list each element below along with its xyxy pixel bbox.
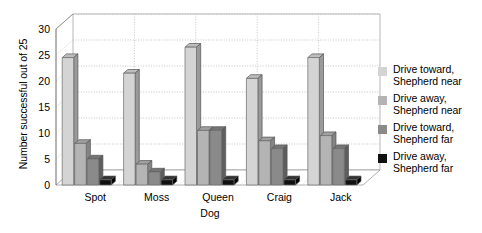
bar-front-face bbox=[320, 136, 332, 185]
legend-swatch-icon bbox=[378, 67, 387, 76]
bar-queen-series-4 bbox=[223, 176, 239, 185]
bar-chart: Number successful out of 25 051015202530… bbox=[0, 0, 482, 233]
bar-front-face bbox=[185, 47, 197, 185]
bar-front-face bbox=[284, 180, 296, 185]
x-category-label-spot: Spot bbox=[84, 191, 106, 203]
legend-swatch-icon bbox=[378, 96, 387, 105]
x-category-label-queen: Queen bbox=[202, 191, 234, 203]
y-axis-top-depth-line bbox=[56, 14, 73, 29]
bar-front-face bbox=[198, 130, 210, 185]
bar-front-face bbox=[149, 172, 161, 185]
bar-front-face bbox=[259, 141, 271, 185]
chart-legend: Drive toward, Shepherd nearDrive away, S… bbox=[378, 64, 482, 180]
x-category-label-craig: Craig bbox=[267, 191, 292, 203]
legend-item[interactable]: Drive toward, Shepherd far bbox=[378, 122, 482, 145]
x-category-label-jack: Jack bbox=[330, 191, 352, 203]
bar-front-face bbox=[62, 58, 73, 185]
bar-front-face bbox=[246, 78, 258, 185]
bar-craig-series-4 bbox=[284, 176, 300, 185]
bar-front-face bbox=[223, 180, 235, 185]
bar-front-face bbox=[87, 159, 99, 185]
bar-front-face bbox=[271, 149, 283, 185]
x-axis-title: Dog bbox=[55, 207, 365, 219]
legend-item[interactable]: Drive away, Shepherd far bbox=[378, 151, 482, 174]
bar-front-face bbox=[75, 143, 87, 185]
bar-front-face bbox=[210, 130, 222, 185]
bar-front-face bbox=[136, 164, 148, 185]
bar-spot-series-4 bbox=[100, 176, 116, 185]
legend-swatch-icon bbox=[378, 125, 387, 134]
bar-moss-series-4 bbox=[161, 176, 177, 185]
x-category-label-moss: Moss bbox=[144, 191, 169, 203]
legend-item[interactable]: Drive toward, Shepherd near bbox=[378, 64, 482, 87]
legend-item-label: Drive toward, Shepherd near bbox=[393, 64, 462, 87]
legend-swatch-icon bbox=[378, 154, 387, 163]
legend-item-label: Drive away, Shepherd near bbox=[393, 93, 462, 116]
bar-side-face bbox=[222, 127, 226, 185]
bar-jack-series-4 bbox=[345, 176, 361, 185]
axis-depth-line bbox=[56, 40, 73, 55]
bar-queen-series-3 bbox=[210, 127, 226, 185]
legend-item-label: Drive away, Shepherd far bbox=[393, 151, 453, 174]
bar-front-face bbox=[308, 58, 320, 185]
bar-front-face bbox=[345, 180, 357, 185]
bar-front-face bbox=[161, 180, 173, 185]
bar-front-face bbox=[124, 73, 136, 185]
legend-item[interactable]: Drive away, Shepherd near bbox=[378, 93, 482, 116]
bar-front-face bbox=[333, 149, 345, 185]
bar-front-face bbox=[100, 180, 112, 185]
legend-item-label: Drive toward, Shepherd far bbox=[393, 122, 454, 145]
